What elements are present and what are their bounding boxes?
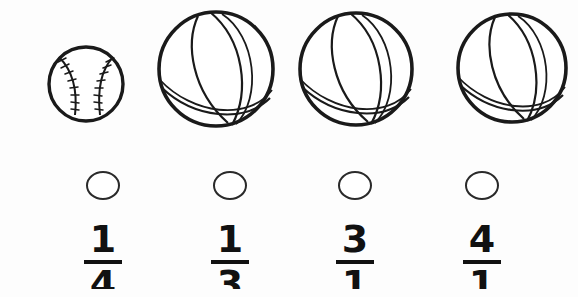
answer-bubble-3[interactable] (338, 171, 372, 200)
answer-choice-row: 1 4 1 3 3 1 4 (0, 150, 578, 297)
basketball-icon (452, 7, 576, 133)
basketball-illustration-2 (293, 6, 421, 136)
fraction-label-3: 3 1 (295, 222, 415, 289)
fraction-numerator: 4 (422, 222, 542, 256)
fraction-numerator: 1 (170, 222, 290, 256)
fraction-label-4: 4 1 (422, 222, 542, 289)
fraction-label-1: 1 4 (43, 222, 163, 289)
fraction-denominator: 1 (295, 267, 415, 289)
answer-bubble-2[interactable] (213, 171, 247, 200)
answer-bubble-1[interactable] (86, 171, 120, 200)
fraction-denominator: 3 (170, 267, 290, 289)
fraction-label-2: 1 3 (170, 222, 290, 289)
answer-choice-4[interactable]: 4 1 (422, 150, 542, 297)
basketball-illustration-1 (152, 6, 282, 136)
answer-choice-3[interactable]: 3 1 (295, 150, 415, 297)
answer-choice-1[interactable]: 1 4 (43, 150, 163, 297)
baseball-icon (40, 38, 132, 130)
basketball-icon (152, 6, 282, 136)
fraction-denominator: 1 (422, 267, 542, 289)
basketball-illustration-3 (452, 7, 576, 133)
answer-bubble-4[interactable] (465, 171, 499, 200)
answer-choice-2[interactable]: 1 3 (170, 150, 290, 297)
basketball-icon (293, 6, 421, 136)
fraction-numerator: 1 (43, 222, 163, 256)
ball-illustration-row (0, 0, 578, 150)
fraction-denominator: 4 (43, 267, 163, 289)
fraction-numerator: 3 (295, 222, 415, 256)
worksheet-page: 1 4 1 3 3 1 4 (0, 0, 578, 297)
baseball-illustration (40, 38, 132, 130)
